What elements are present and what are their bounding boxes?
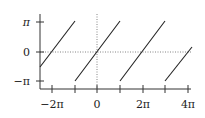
y-tick-label-neg-pi: −π — [14, 75, 30, 88]
x-tick-label-2pi: 2π — [136, 98, 150, 111]
x-tick-label-neg-2pi: −2π — [40, 98, 63, 111]
x-tick-label-zero: 0 — [94, 98, 101, 111]
x-tick-label-4pi: 4π — [181, 98, 195, 111]
sawtooth-segment-3 — [120, 21, 165, 81]
sawtooth-segment-2 — [75, 21, 120, 81]
y-tick-label-pi: π — [22, 16, 31, 29]
chart: π 0 −π −2π 0 2π 4π — [0, 0, 205, 118]
y-tick-label-zero: 0 — [23, 46, 30, 59]
sawtooth-segment-1 — [40, 21, 75, 67]
